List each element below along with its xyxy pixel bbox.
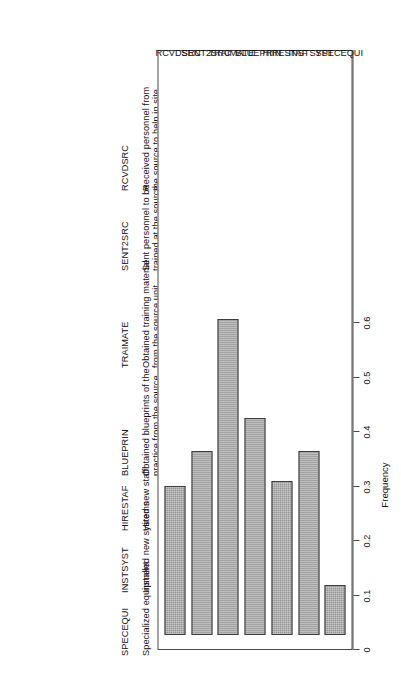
legend-code: BLUEPRIN [119,368,130,476]
legend-code: SENT2SRC [119,184,130,271]
category-labels: SPECEQUI INSTSYST HIRESTAF BLUEPRIN TRAI… [157,0,352,50]
value-axis: 0 0.1 0.2 0.3 0.4 0.5 0.6 Frequency [353,50,401,650]
legend-description: Hired new staff [140,469,151,532]
legend-code: TRAIMATE [119,260,130,368]
bar-sent2src[interactable] [191,451,212,635]
category-label-rcvdsrc: RCVDSRC [155,48,200,58]
bar-hirestaf[interactable] [271,481,292,635]
bar-speceui[interactable] [324,586,345,636]
axis-tick [353,486,359,487]
legend-code: RCVDSRC [119,87,130,191]
axis-tick-label: 0.5 [361,372,371,385]
legend-code: HIRESTAF [119,469,130,532]
legend-entry: HIRESTAF Hired new staff [108,469,161,532]
axis-tick-label: 0.4 [361,426,371,439]
axis-tick [353,649,359,650]
bar-chart: 0 0.1 0.2 0.3 0.4 0.5 0.6 Frequency SPEC… [155,0,401,686]
axis-tick [353,377,359,378]
axis-tick-label: 0.2 [361,535,371,548]
rotated-figure-stage: SPECEQUI Specialized equipment INSTSYST … [0,0,401,686]
axis-tick [353,431,359,432]
bar-traimate[interactable] [217,319,238,635]
legend: SPECEQUI Specialized equipment INSTSYST … [0,0,150,686]
axis-tick [353,540,359,541]
bars-container [158,51,351,649]
bar-blueprin[interactable] [244,418,265,635]
axis-tick-label: 0 [361,647,371,652]
axis-title-frequency: Frequency [378,320,389,650]
bar-instsyst[interactable] [298,451,319,635]
bar-rcvdsrc[interactable] [164,487,185,636]
axis-tick [353,595,359,596]
axis-tick-label: 0.6 [361,317,371,330]
axis-tick [353,322,359,323]
axis-tick-label: 0.1 [361,590,371,603]
axis-tick-label: 0.3 [361,481,371,494]
